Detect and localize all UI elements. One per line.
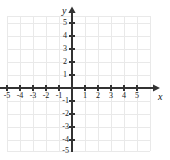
y-tick-label-neg5: -5 (62, 147, 69, 155)
y-tick-label-neg4: -4 (62, 136, 69, 144)
y-tick-label-neg1: -1 (62, 97, 69, 105)
y-axis-line (68, 7, 75, 153)
x-tick-label-neg4: -4 (17, 92, 24, 100)
x-tick-label-neg3: -3 (30, 92, 37, 100)
x-tick-label-5: 5 (135, 92, 139, 100)
y-tick-label-4: 4 (63, 32, 67, 40)
x-tick-label-2: 2 (96, 92, 100, 100)
x-axis-label: x (158, 92, 162, 102)
x-tick-label-neg2: -2 (43, 92, 50, 100)
y-tick-label-3: 3 (63, 45, 67, 53)
x-tick-label-neg1: -1 (56, 92, 63, 100)
axes (0, 0, 170, 160)
x-tick-label-3: 3 (109, 92, 113, 100)
y-tick-label-5: 5 (63, 19, 67, 27)
x-tick-label-neg5: -5 (4, 92, 11, 100)
y-tick-label-1: 1 (63, 71, 67, 79)
x-tick-label-4: 4 (122, 92, 126, 100)
x-tick-label-1: 1 (83, 92, 87, 100)
y-tick-label-neg2: -2 (62, 110, 69, 118)
coordinate-plane-figure: -5 -4 -3 -2 -1 1 2 3 4 5 5 4 3 2 1 -1 -2… (0, 0, 170, 160)
y-axis-label: y (62, 6, 66, 16)
y-tick-label-neg3: -3 (62, 123, 69, 131)
y-tick-label-2: 2 (63, 58, 67, 66)
